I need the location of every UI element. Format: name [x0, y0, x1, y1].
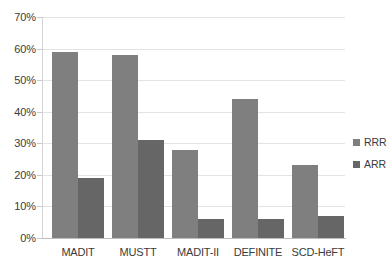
y-axis-label-50: 50%: [2, 75, 36, 86]
x-axis-label-definite: DEFINITE: [228, 246, 288, 258]
bar-madit-rrr: [52, 52, 78, 238]
y-axis-labels: 70% 60% 50% 40% 30% 20% 10% 0%: [0, 0, 36, 275]
y-tick-0: [37, 238, 42, 239]
bar-mustt-arr: [138, 140, 164, 238]
gridline-30: [42, 143, 345, 144]
legend-label-rrr: RRR: [364, 137, 386, 148]
legend-label-arr: ARR: [364, 159, 386, 170]
legend-item-rrr[interactable]: RRR: [353, 134, 392, 150]
bar-madit-arr: [78, 178, 104, 238]
y-axis-label-70: 70%: [2, 12, 36, 23]
x-axis-label-mustt: MUSTT: [108, 246, 168, 258]
x-axis-label-madit-ii: MADIT-II: [168, 246, 228, 258]
y-axis-line: [42, 17, 43, 239]
bar-chart: 70% 60% 50% 40% 30% 20% 10% 0% MADIT MUS…: [0, 0, 392, 275]
chart-legend: RRR ARR: [353, 134, 392, 178]
y-tick-30: [37, 143, 42, 144]
y-tick-50: [37, 80, 42, 81]
x-axis-label-scd-heft: SCD-HeFT: [288, 246, 348, 258]
y-axis-label-40: 40%: [2, 107, 36, 118]
y-axis-label-60: 60%: [2, 44, 36, 55]
y-axis-label-0: 0%: [2, 233, 36, 244]
y-tick-20: [37, 175, 42, 176]
bar-definite-rrr: [232, 99, 258, 238]
gridline-40: [42, 112, 345, 113]
bar-definite-arr: [258, 219, 284, 238]
gridline-60: [42, 49, 345, 50]
bar-madit-ii-rrr: [172, 150, 198, 238]
y-axis-label-30: 30%: [2, 138, 36, 149]
y-tick-10: [37, 206, 42, 207]
legend-swatch-icon-arr: [353, 161, 360, 168]
y-axis-label-20: 20%: [2, 170, 36, 181]
gridline-70: [42, 17, 345, 18]
bar-mustt-rrr: [112, 55, 138, 238]
bar-scd-heft-arr: [318, 216, 344, 238]
gridline-50: [42, 80, 345, 81]
y-tick-40: [37, 112, 42, 113]
legend-swatch-icon-rrr: [353, 139, 360, 146]
x-axis-line: [42, 238, 346, 239]
bar-madit-ii-arr: [198, 219, 224, 238]
x-axis-label-madit: MADIT: [48, 246, 108, 258]
bar-scd-heft-rrr: [292, 165, 318, 238]
y-axis-label-10: 10%: [2, 201, 36, 212]
legend-item-arr[interactable]: ARR: [353, 156, 392, 172]
y-tick-70: [37, 17, 42, 18]
plot-area: [42, 17, 345, 238]
y-tick-60: [37, 49, 42, 50]
